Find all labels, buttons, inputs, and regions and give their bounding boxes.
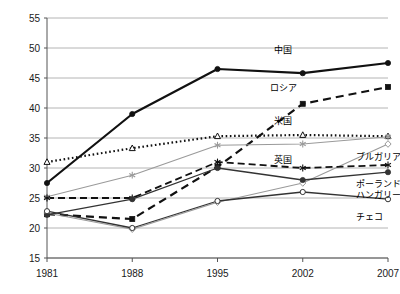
series-label-7: チェコ — [356, 212, 383, 222]
data-point-marker — [385, 60, 390, 65]
series-line-4 — [47, 144, 388, 229]
series-label-0: 中国 — [274, 44, 292, 55]
y-tick-label: 45 — [29, 73, 41, 84]
x-tick-label: 2007 — [377, 268, 400, 279]
y-tick-labels: 152025303540455055 — [29, 13, 41, 264]
data-point-marker — [44, 180, 49, 185]
series-markers — [44, 60, 391, 232]
data-point-marker — [385, 141, 391, 148]
series-label-2: 米国 — [274, 115, 292, 126]
data-point-marker — [130, 111, 135, 116]
data-point-marker — [300, 177, 305, 182]
series-label-4: ブルガリア — [356, 151, 400, 162]
x-tick-label: 2002 — [292, 268, 315, 279]
series-label-5: ポーランド — [356, 179, 400, 189]
series-label-1: ロシア — [270, 83, 297, 93]
y-tick-label: 30 — [29, 163, 41, 174]
data-point-marker — [215, 198, 220, 203]
data-point-marker — [300, 101, 305, 106]
series-label-6: ハンガリー — [356, 190, 400, 200]
data-point-marker — [130, 197, 135, 202]
data-point-marker — [300, 189, 305, 194]
y-tick-label: 40 — [29, 103, 41, 114]
data-point-marker — [44, 209, 49, 214]
y-tick-label: 50 — [29, 43, 41, 54]
data-point-marker — [385, 170, 390, 175]
data-point-marker — [300, 132, 306, 138]
data-point-marker — [215, 165, 220, 170]
chart-canvas: 152025303540455055 19811988199520022007 … — [0, 0, 400, 294]
y-tick-label: 15 — [29, 253, 41, 264]
series-label-3: 英国 — [274, 154, 292, 165]
data-point-marker — [44, 159, 50, 165]
y-tick-label: 55 — [29, 13, 41, 24]
x-tick-labels: 19811988199520022007 — [36, 268, 400, 279]
line-chart: 152025303540455055 19811988199520022007 … — [0, 0, 400, 294]
x-tick-label: 1995 — [206, 268, 229, 279]
data-point-marker — [386, 85, 391, 90]
y-tick-label: 35 — [29, 133, 41, 144]
y-tick-label: 25 — [29, 193, 41, 204]
data-point-marker — [215, 133, 221, 139]
series-line-6 — [47, 168, 388, 215]
data-point-marker — [130, 217, 135, 222]
data-point-marker — [215, 66, 220, 71]
x-tick-label: 1981 — [36, 268, 59, 279]
x-tick-label: 1988 — [121, 268, 144, 279]
y-tick-label: 20 — [29, 223, 41, 234]
x-tick-marks — [47, 258, 388, 262]
data-point-marker — [130, 225, 135, 230]
data-point-marker — [300, 71, 305, 76]
